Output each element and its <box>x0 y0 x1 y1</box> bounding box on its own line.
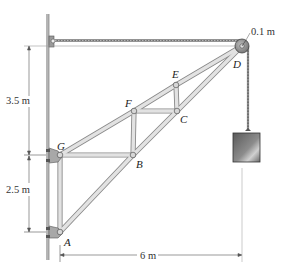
dim-lower-vertical: 2.5 m <box>6 184 30 195</box>
pin-e <box>173 82 179 88</box>
dim-horizontal: 6 m <box>140 250 156 261</box>
truss-diagram: 3.5 m 2.5 m 6 m 0.1 m A B C D E F G <box>0 0 283 277</box>
pin-b <box>130 152 136 158</box>
cable-wall-bracket <box>49 36 55 47</box>
label-c: C <box>180 113 188 125</box>
pin-a <box>57 229 63 235</box>
label-d: D <box>232 58 241 70</box>
pulley-radius-label: 0.1 m <box>251 26 275 37</box>
hanging-block <box>233 128 260 162</box>
label-b: B <box>136 158 143 170</box>
pin-f <box>131 108 137 114</box>
label-g: G <box>57 140 65 152</box>
pin-g <box>57 152 63 158</box>
pin-c <box>174 108 180 114</box>
label-a: A <box>63 236 71 248</box>
label-e: E <box>171 68 179 80</box>
wall <box>46 14 49 260</box>
truss-members <box>60 46 242 232</box>
label-f: F <box>124 97 132 109</box>
dim-upper-vertical: 3.5 m <box>6 95 30 106</box>
pulley-d <box>235 33 250 53</box>
